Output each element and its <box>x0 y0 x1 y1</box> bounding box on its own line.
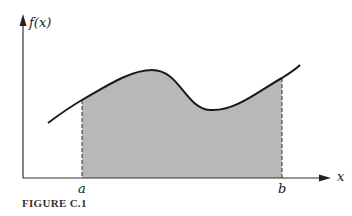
upper-bound-label: b <box>278 181 286 196</box>
integral-area-diagram: f(x) x a b <box>0 0 352 216</box>
lower-bound-label: a <box>78 181 86 196</box>
y-axis-label: f(x) <box>28 15 51 30</box>
x-axis-arrow-icon <box>319 175 331 182</box>
figure-caption: FIGURE C.1 <box>22 197 87 209</box>
shaded-area-under-curve <box>82 70 282 178</box>
x-axis-label: x <box>337 169 345 184</box>
y-axis-arrow-icon <box>20 14 27 26</box>
